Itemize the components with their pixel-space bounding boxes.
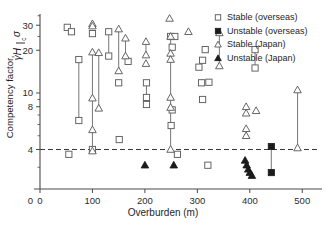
data-point xyxy=(168,122,174,128)
y-tick-label: 4 xyxy=(28,144,33,155)
data-point xyxy=(198,80,204,86)
data-point xyxy=(200,57,206,63)
data-point xyxy=(174,151,180,157)
data-point xyxy=(202,47,208,53)
x-tick-label: 400 xyxy=(242,195,258,206)
x-tick-label: 0 xyxy=(37,195,42,206)
data-point xyxy=(66,151,72,157)
chart-figure: 0100200300400500481020300 Stable (overse… xyxy=(0,0,326,225)
data-point xyxy=(200,96,206,102)
data-point xyxy=(68,29,74,35)
data-point xyxy=(143,80,149,86)
y-axis-title-prefix: Competency factor, xyxy=(4,56,15,139)
data-point xyxy=(206,79,212,85)
y-axis-title: Competency factor, xyxy=(4,56,15,139)
x-tick-label: 200 xyxy=(137,195,153,206)
y-tick-label: 20 xyxy=(22,45,33,56)
data-point xyxy=(116,80,122,86)
legend-marker-filled-square xyxy=(215,28,220,33)
x-tick-label: 500 xyxy=(294,195,310,206)
y-tick-label: 30 xyxy=(22,20,33,31)
competency-factor-scatter-plot: 0100200300400500481020300 Stable (overse… xyxy=(0,0,326,225)
data-point xyxy=(143,94,149,100)
origin-label: 0 xyxy=(28,195,33,206)
data-point xyxy=(205,162,211,168)
data-point xyxy=(89,30,95,36)
data-point xyxy=(169,44,175,50)
y-axis-sigma-c: σ xyxy=(11,30,22,37)
x-tick-label: 100 xyxy=(85,195,101,206)
legend-label: Unstable (Japan) xyxy=(227,53,296,63)
legend-marker-open-square xyxy=(215,15,220,20)
legend-label: Stable (overseas) xyxy=(227,12,298,22)
data-point xyxy=(76,56,82,62)
data-point xyxy=(268,143,274,149)
data-point xyxy=(76,117,82,123)
y-tick-label: 8 xyxy=(28,101,33,112)
legend-label: Unstable (overseas) xyxy=(227,26,308,36)
legend-label: Stable (Japan) xyxy=(227,39,286,49)
y-axis-gamma-h: γH xyxy=(12,47,23,60)
data-point xyxy=(196,64,202,70)
data-point xyxy=(116,136,122,142)
data-point xyxy=(252,65,258,71)
data-point xyxy=(106,53,112,59)
data-point xyxy=(106,29,112,35)
data-point xyxy=(143,101,149,107)
data-point xyxy=(268,170,274,176)
x-tick-label: 300 xyxy=(189,195,205,206)
y-tick-label: 10 xyxy=(22,87,33,98)
x-axis-title: Overburden (m) xyxy=(128,207,199,218)
